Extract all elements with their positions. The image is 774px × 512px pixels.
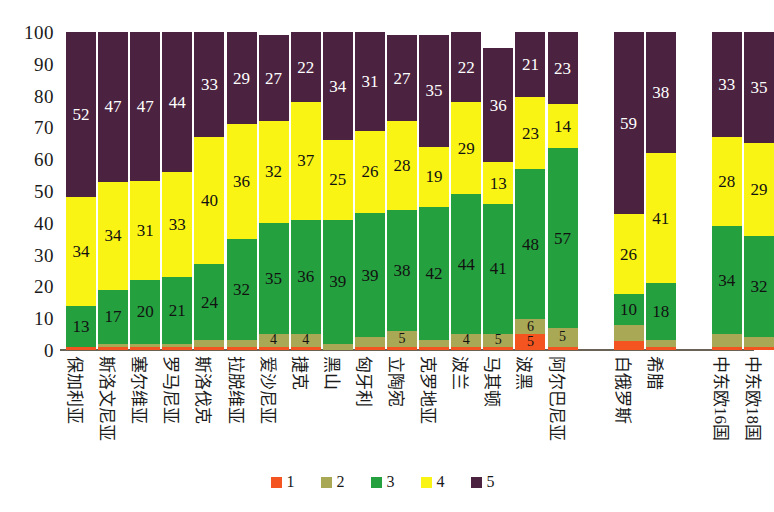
bar-segment[interactable]: 31 [130,181,160,280]
bar-segment[interactable] [355,347,385,350]
bar-segment[interactable] [712,334,742,347]
bar-segment[interactable]: 41 [483,204,513,334]
bar-column[interactable]: 4353227 [259,32,289,350]
bar-segment[interactable] [162,347,192,350]
bar-segment[interactable]: 44 [451,194,481,334]
bar-column[interactable]: 392631 [355,32,385,350]
bar-segment[interactable]: 33 [194,32,224,137]
bar-segment[interactable]: 10 [614,294,644,325]
bar-segment[interactable]: 35 [419,35,449,146]
bar-segment[interactable] [614,341,644,350]
bar-segment[interactable]: 33 [712,32,742,137]
bar-segment[interactable]: 17 [98,290,128,344]
bar-segment[interactable]: 28 [387,121,417,210]
bar-segment[interactable] [646,347,676,350]
bar-column[interactable]: 5411336 [483,32,513,350]
bar-segment[interactable]: 14 [548,104,578,148]
bar-column[interactable]: 203147 [130,32,160,350]
bar-segment[interactable] [483,347,513,350]
legend-item-3[interactable]: 3 [371,474,395,490]
bar-segment[interactable]: 4 [291,334,321,347]
bar-segment[interactable]: 36 [227,124,257,238]
bar-segment[interactable]: 21 [515,32,545,97]
legend-item-5[interactable]: 5 [471,474,495,490]
bar-column[interactable]: 323629 [227,32,257,350]
bar-segment[interactable]: 59 [614,32,644,214]
bar-segment[interactable] [323,344,353,350]
bar-segment[interactable] [98,347,128,350]
bar-segment[interactable] [227,340,257,346]
bar-segment[interactable]: 31 [355,32,385,131]
bar-segment[interactable] [355,337,385,347]
bar-column[interactable]: 5571423 [548,32,578,350]
bar-segment[interactable]: 40 [194,137,224,264]
bar-segment[interactable]: 27 [259,35,289,121]
bar-column[interactable]: 421935 [419,32,449,350]
bar-segment[interactable]: 36 [483,48,513,162]
bar-segment[interactable]: 26 [614,214,644,294]
bar-segment[interactable]: 23 [548,32,578,104]
bar-segment[interactable] [548,347,578,350]
bar-segment[interactable]: 18 [646,283,676,340]
bar-column[interactable]: 322935 [744,32,774,350]
bar-segment[interactable]: 48 [515,169,545,319]
bar-segment[interactable] [419,340,449,346]
bar-segment[interactable]: 38 [646,32,676,153]
bar-segment[interactable] [130,347,160,350]
bar-segment[interactable] [98,344,128,347]
bar-column[interactable]: 173447 [98,32,128,350]
bar-column[interactable]: 5382827 [387,32,417,350]
bar-column[interactable]: 56482321 [515,32,545,350]
bar-column[interactable]: 102659 [614,32,644,350]
bar-column[interactable]: 342833 [712,32,742,350]
bar-segment[interactable]: 33 [162,172,192,277]
bar-column[interactable]: 4363722 [291,32,321,350]
bar-segment[interactable] [227,347,257,350]
bar-segment[interactable] [194,347,224,350]
bar-segment[interactable]: 34 [98,182,128,290]
bar-segment[interactable]: 6 [515,319,545,335]
legend-item-4[interactable]: 4 [421,474,445,490]
bar-segment[interactable]: 36 [291,220,321,334]
bar-segment[interactable]: 25 [323,140,353,220]
bar-segment[interactable] [744,347,774,350]
bar-column[interactable]: 4442922 [451,32,481,350]
bar-segment[interactable] [387,347,417,350]
bar-column[interactable]: 133452 [66,32,96,350]
bar-segment[interactable]: 27 [387,35,417,121]
bar-column[interactable]: 184138 [646,32,676,350]
bar-segment[interactable]: 13 [66,306,96,347]
bar-segment[interactable]: 5 [483,334,513,347]
bar-segment[interactable]: 34 [323,32,353,140]
bar-segment[interactable]: 47 [130,32,160,181]
bar-segment[interactable]: 35 [744,32,774,143]
bar-segment[interactable] [712,347,742,350]
bar-segment[interactable]: 38 [387,210,417,331]
bar-segment[interactable]: 32 [259,121,289,223]
bar-segment[interactable]: 41 [646,153,676,283]
bar-segment[interactable]: 29 [227,32,257,124]
bar-segment[interactable]: 32 [744,236,774,338]
bar-segment[interactable]: 24 [194,264,224,340]
bar-segment[interactable] [451,347,481,350]
bar-segment[interactable]: 57 [548,148,578,327]
bar-segment[interactable]: 4 [259,334,289,347]
bar-column[interactable]: 244033 [194,32,224,350]
bar-segment[interactable] [130,344,160,347]
bar-segment[interactable]: 29 [744,143,774,235]
bar-segment[interactable] [162,344,192,347]
bar-segment[interactable]: 47 [98,32,128,181]
bar-column[interactable]: 213344 [162,32,192,350]
bar-segment[interactable] [66,347,96,350]
bar-segment[interactable]: 35 [259,223,289,334]
legend-item-1[interactable]: 1 [271,474,295,490]
bar-segment[interactable]: 29 [451,102,481,194]
bar-segment[interactable]: 34 [712,226,742,334]
bar-segment[interactable]: 52 [66,32,96,197]
bar-segment[interactable]: 19 [419,147,449,207]
bar-segment[interactable]: 28 [712,137,742,226]
bar-segment[interactable]: 32 [227,239,257,341]
bar-segment[interactable]: 22 [451,32,481,102]
bar-segment[interactable]: 5 [387,331,417,347]
bar-segment[interactable]: 34 [66,197,96,305]
